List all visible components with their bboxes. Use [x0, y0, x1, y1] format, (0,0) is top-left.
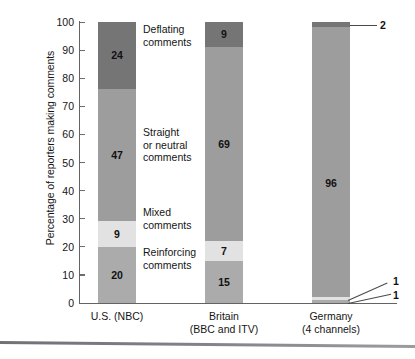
- y-tick-mark-40: [80, 190, 85, 191]
- leader-line-germany-deflating: [350, 25, 377, 26]
- annotation-straight-line3: comments: [143, 151, 191, 163]
- bar-britain[interactable]: 9 69 7 15: [205, 22, 243, 304]
- bar-segment-us-deflating[interactable]: [98, 22, 136, 90]
- bar-segment-britain-deflating[interactable]: [205, 22, 243, 47]
- bar-us[interactable]: 24 47 9 20: [98, 22, 136, 304]
- y-tick-label-40: 40: [50, 185, 74, 197]
- bar-value-germany-reinforcing: 1: [393, 289, 399, 301]
- y-axis-line: [79, 21, 80, 304]
- y-tick-label-60: 60: [50, 128, 74, 140]
- y-tick-label-20: 20: [50, 241, 74, 253]
- annotation-deflating: Deflating comments: [143, 23, 191, 48]
- bottom-divider: [0, 341, 415, 348]
- y-tick-mark-50: [80, 162, 85, 163]
- y-tick-mark-10: [80, 274, 85, 275]
- bar-segment-us-mixed[interactable]: [98, 221, 136, 246]
- bar-segment-britain-mixed[interactable]: [205, 241, 243, 261]
- bar-segment-us-straight[interactable]: [98, 89, 136, 221]
- bar-segment-germany-straight[interactable]: [312, 27, 350, 297]
- y-tick-mark-90: [80, 50, 85, 51]
- y-tick-label-90: 90: [50, 44, 74, 56]
- y-tick-mark-30: [80, 218, 85, 219]
- y-tick-label-10: 10: [50, 269, 74, 281]
- x-axis-label-germany: Germany (4 channels): [256, 310, 406, 336]
- annotation-straight: Straight or neutral comments: [143, 126, 191, 164]
- x-axis-label-britain-line1: Britain: [209, 310, 239, 322]
- bar-value-germany-deflating: 2: [380, 19, 386, 31]
- annotation-reinforcing-line2: comments: [143, 259, 191, 271]
- x-axis-label-germany-line1: Germany: [309, 310, 352, 322]
- annotation-mixed: Mixed comments: [143, 206, 191, 231]
- annotation-mixed-line1: Mixed: [143, 206, 171, 218]
- y-tick-label-50: 50: [50, 157, 74, 169]
- bar-segment-us-reinforcing[interactable]: [98, 247, 136, 303]
- y-tick-label-100: 100: [50, 16, 74, 28]
- annotation-reinforcing-line1: Reinforcing: [143, 246, 196, 258]
- y-tick-mark-60: [80, 134, 85, 135]
- annotation-straight-line1: Straight: [143, 126, 179, 138]
- annotation-reinforcing: Reinforcing comments: [143, 246, 196, 271]
- annotation-straight-line2: or neutral: [143, 139, 187, 151]
- y-tick-mark-80: [80, 78, 85, 79]
- annotation-deflating-line1: Deflating: [143, 23, 184, 35]
- x-axis-label-us-line1: U.S. (NBC): [91, 310, 144, 322]
- y-tick-label-30: 30: [50, 213, 74, 225]
- stacked-bar-chart: Percentage of reporters making comments …: [0, 0, 415, 359]
- y-tick-label-80: 80: [50, 72, 74, 84]
- bar-segment-britain-straight[interactable]: [205, 47, 243, 241]
- annotation-deflating-line2: comments: [143, 36, 191, 48]
- y-tick-mark-20: [80, 246, 85, 247]
- bar-segment-germany-reinforcing[interactable]: [312, 300, 350, 303]
- y-tick-label-0: 0: [50, 297, 74, 309]
- y-tick-label-70: 70: [50, 100, 74, 112]
- bar-germany[interactable]: 96: [312, 22, 350, 304]
- y-tick-mark-100: [80, 22, 85, 23]
- x-axis-label-germany-line2: (4 channels): [256, 323, 406, 336]
- bar-value-germany-mixed: 1: [393, 275, 399, 287]
- bar-segment-britain-reinforcing[interactable]: [205, 261, 243, 303]
- annotation-mixed-line2: comments: [143, 219, 191, 231]
- y-tick-mark-70: [80, 106, 85, 107]
